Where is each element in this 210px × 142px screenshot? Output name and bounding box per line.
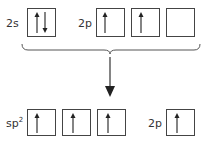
label-2p-bottom: 2p bbox=[148, 117, 162, 130]
orbital-2s bbox=[28, 9, 56, 37]
orbital-sp2-3 bbox=[98, 110, 126, 136]
down-arrow-icon bbox=[105, 57, 115, 97]
orbital-2p-bottom bbox=[167, 110, 195, 136]
orbital-2p-top-3 bbox=[167, 9, 195, 37]
bottom-brace-icon bbox=[22, 44, 200, 54]
label-2p-top: 2p bbox=[78, 17, 92, 30]
label-sp2: sp2 bbox=[6, 116, 23, 130]
orbital-2p-top-1 bbox=[97, 9, 125, 37]
label-2s: 2s bbox=[6, 17, 19, 30]
orbital-sp2-2 bbox=[63, 110, 91, 136]
orbital-2p-top-2 bbox=[132, 9, 160, 37]
hybridization-diagram: 2s 2p sp2 bbox=[0, 0, 210, 142]
orbital-sp2-1 bbox=[28, 110, 56, 136]
